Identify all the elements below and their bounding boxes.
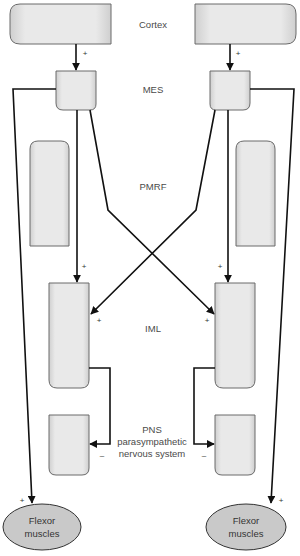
flexor-left-line1: Flexor bbox=[29, 515, 55, 526]
sign-iml-top-left: + bbox=[82, 262, 87, 271]
label-pmrf: PMRF bbox=[140, 181, 167, 192]
sign-flexor-left: + bbox=[20, 496, 25, 505]
pmrf-box-left bbox=[30, 141, 69, 246]
mes-box-left bbox=[56, 71, 96, 110]
label-pns-line1: PNS bbox=[142, 424, 162, 435]
mes-left-to-iml-right-arrow bbox=[90, 110, 214, 314]
flexor-right-line1: Flexor bbox=[233, 515, 259, 526]
flexor-muscles-left bbox=[3, 504, 81, 550]
cortex-box-right bbox=[195, 4, 296, 44]
label-pns-line3: nervous system bbox=[119, 448, 186, 459]
flexor-left-line2: muscles bbox=[25, 528, 60, 539]
label-iml: IML bbox=[145, 323, 161, 334]
mes-box-right bbox=[210, 71, 250, 110]
sign-flexor-right: + bbox=[279, 496, 284, 505]
sign-cortex-mes-right: + bbox=[236, 49, 241, 58]
sign-iml-cross-right: + bbox=[205, 316, 210, 325]
flexor-muscles-right bbox=[206, 504, 286, 550]
neural-pathway-diagram: + + + + + + – – + + Cortex MES PMRF IML … bbox=[0, 0, 300, 556]
cortex-box-left bbox=[10, 4, 111, 44]
label-pns-line2: parasympathetic bbox=[117, 436, 187, 447]
iml-box-left bbox=[49, 283, 89, 388]
label-mes: MES bbox=[143, 84, 164, 95]
iml-to-pns-right-arrow bbox=[194, 368, 215, 444]
sign-iml-cross-left: + bbox=[97, 316, 102, 325]
iml-to-pns-left-arrow bbox=[89, 368, 110, 444]
iml-box-right bbox=[215, 283, 255, 388]
pns-box-left bbox=[49, 415, 89, 475]
sign-pns-right: – bbox=[202, 451, 207, 460]
sign-pns-left: – bbox=[100, 451, 105, 460]
sign-iml-top-right: + bbox=[218, 262, 223, 271]
label-cortex: Cortex bbox=[139, 19, 167, 30]
sign-cortex-mes-left: + bbox=[83, 49, 88, 58]
flexor-right-line2: muscles bbox=[229, 528, 264, 539]
pns-box-right bbox=[215, 415, 255, 475]
pmrf-box-right bbox=[236, 141, 275, 246]
